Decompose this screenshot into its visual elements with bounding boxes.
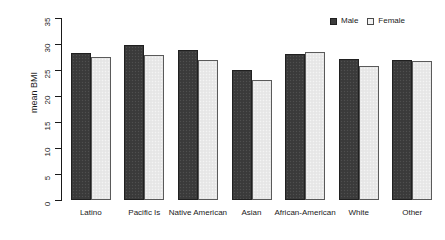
legend-label-female: Female <box>378 17 405 25</box>
bar-female <box>359 66 379 200</box>
x-axis-label: African-American <box>274 209 335 217</box>
bar-male <box>232 70 252 200</box>
bar-group <box>178 18 218 200</box>
y-axis-tick-label: 25 <box>44 70 52 79</box>
y-axis-tick-label: 0 <box>44 202 52 206</box>
y-axis-tick <box>55 200 61 201</box>
bar-male <box>124 45 144 200</box>
y-axis-tick-label: 20 <box>44 96 52 105</box>
y-axis-tick-label: 10 <box>44 148 52 157</box>
bar-female <box>91 57 111 200</box>
y-axis-tick <box>55 174 61 175</box>
y-axis-tick-label: 15 <box>44 122 52 131</box>
y-axis-tick <box>55 96 61 97</box>
bar-group <box>392 18 432 200</box>
plot-area <box>62 18 437 200</box>
chart-legend: Male Female <box>330 17 405 25</box>
legend-swatch-female-icon <box>367 18 374 25</box>
y-axis-tick <box>55 44 61 45</box>
y-axis-tick <box>55 148 61 149</box>
x-axis-label: Latino <box>80 209 102 217</box>
bar-group <box>71 18 111 200</box>
legend-entry-male: Male <box>330 17 358 25</box>
y-axis-tick-label: 35 <box>44 18 52 27</box>
y-axis-tick <box>55 18 61 19</box>
y-axis-tick <box>55 70 61 71</box>
x-axis-label: Pacific Is <box>128 209 160 217</box>
bar-group <box>232 18 272 200</box>
bar-female <box>198 60 218 200</box>
y-axis-tick-label: 5 <box>44 176 52 180</box>
bar-male <box>71 53 91 200</box>
y-axis-tick-label: 30 <box>44 44 52 53</box>
bar-group <box>124 18 164 200</box>
x-axis-label: Native American <box>169 209 227 217</box>
x-axis-label: White <box>348 209 368 217</box>
y-axis-tick <box>55 122 61 123</box>
bar-male <box>178 50 198 200</box>
bar-group <box>339 18 379 200</box>
legend-swatch-male-icon <box>330 18 337 25</box>
bar-female <box>144 55 164 200</box>
bar-group <box>285 18 325 200</box>
x-axis-label: Other <box>402 209 422 217</box>
bmi-bar-chart: mean BMI 05101520253035 LatinoPacific Is… <box>0 0 445 240</box>
bar-female <box>305 52 325 200</box>
bar-female <box>252 80 272 200</box>
y-axis-title: mean BMI <box>30 72 39 113</box>
legend-label-male: Male <box>341 17 358 25</box>
bar-male <box>339 59 359 200</box>
bar-male <box>392 60 412 200</box>
bar-male <box>285 54 305 200</box>
legend-entry-female: Female <box>367 17 405 25</box>
bar-female <box>412 61 432 200</box>
x-axis-label: Asian <box>241 209 261 217</box>
